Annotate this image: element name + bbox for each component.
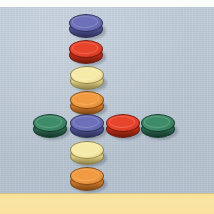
checker-inner-ring <box>73 116 99 128</box>
checker-green[interactable] <box>141 114 175 138</box>
top-white-band <box>0 0 214 7</box>
checker-cream[interactable] <box>70 141 104 165</box>
bottom-yellow-band <box>0 193 214 214</box>
checker-inner-ring <box>109 116 135 128</box>
checker-inner-ring <box>73 143 99 155</box>
bottom-band-edge-line <box>0 193 214 194</box>
checker-orange[interactable] <box>70 91 104 115</box>
table-surface <box>0 7 214 193</box>
checker-inner-ring <box>72 16 98 28</box>
checker-cream[interactable] <box>70 66 104 90</box>
checker-inner-ring <box>72 42 98 54</box>
checker-red[interactable] <box>106 114 140 138</box>
checker-orange[interactable] <box>70 167 104 191</box>
checker-inner-ring <box>73 68 99 80</box>
checker-inner-ring <box>73 169 99 181</box>
checker-blue[interactable] <box>70 114 104 138</box>
checker-inner-ring <box>144 116 170 128</box>
checker-blue[interactable] <box>69 14 103 38</box>
checkers-scene <box>0 0 214 214</box>
checker-red[interactable] <box>69 40 103 64</box>
checker-inner-ring <box>36 116 62 128</box>
checker-green[interactable] <box>33 114 67 138</box>
checker-inner-ring <box>73 93 99 105</box>
